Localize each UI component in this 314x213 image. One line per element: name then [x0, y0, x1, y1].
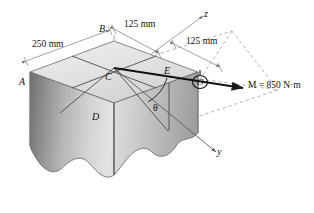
- dimension-250mm-label: 250 mm: [32, 40, 63, 50]
- block-solid: [30, 41, 198, 177]
- axis-z-label: z: [204, 9, 208, 19]
- point-c-label: C: [105, 72, 112, 82]
- axis-y-label: y: [217, 147, 221, 157]
- point-e-label: E: [164, 66, 170, 76]
- engineering-figure: 250 mm 125 mm 125 mm A B C D E O z y θ M…: [0, 0, 314, 213]
- point-b-label: B: [99, 24, 105, 34]
- point-d-label: D: [92, 112, 99, 122]
- moment-label: M = 850 N·m: [248, 81, 301, 91]
- point-o-label: O: [197, 78, 204, 87]
- dimension-125mm-upper-label: 125 mm: [124, 20, 155, 30]
- theta-label: θ: [153, 103, 158, 113]
- dimension-125mm-lower-label: 125 mm: [186, 37, 217, 47]
- point-a-label: A: [19, 77, 25, 87]
